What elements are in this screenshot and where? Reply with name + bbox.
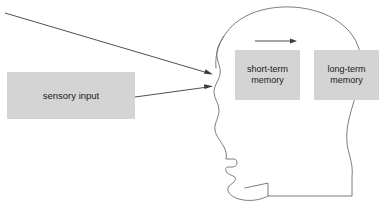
stimulus-arrow-line [5, 13, 208, 73]
sensory-input-arrow-head [204, 84, 213, 89]
head-profile-figure [214, 7, 361, 201]
stimulus-arrow [5, 13, 213, 75]
box-sensory-input[interactable]: sensory input [7, 72, 135, 119]
memory-transfer-arrow-head [290, 39, 297, 44]
memory-transfer-arrow [255, 39, 297, 44]
sensory-input-arrow [135, 84, 213, 97]
box-short-term-memory[interactable]: short-term memory [235, 50, 300, 100]
sensory-input-arrow-line [135, 87, 208, 97]
head-profile-path [216, 7, 362, 196]
box-long-term-memory[interactable]: long-term memory [314, 50, 379, 100]
diagram-canvas: sensory input short-term memory long-ter… [0, 0, 381, 209]
stimulus-arrow-head [204, 69, 213, 74]
